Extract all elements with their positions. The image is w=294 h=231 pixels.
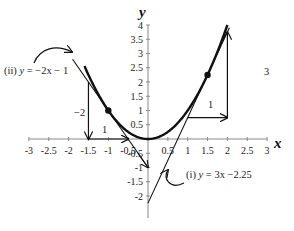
y-tick-label: 0.5 — [131, 119, 144, 130]
tangent-i-rise-label: 3 — [264, 66, 269, 77]
tangent-ii-run-label: 1 — [102, 124, 107, 135]
x-tick-label: -1.5 — [81, 145, 97, 156]
x-tick-label: -2.5 — [41, 145, 57, 156]
y-tick-label: 1.5 — [131, 91, 144, 102]
x-tick-label: -1 — [104, 145, 112, 156]
tangent-i-pointer-arrow — [166, 170, 184, 185]
tangent-ii-label: (ii) y = −2x − 1 — [4, 65, 68, 77]
y-tick-label: 1 — [138, 105, 143, 116]
x-tick-label: 1 — [185, 145, 190, 156]
y-tick-label: -1.5 — [127, 176, 143, 187]
y-tick-label: -1 — [135, 162, 143, 173]
x-tick-label: 3 — [265, 145, 270, 156]
tangent-ii-pointer-arrow — [34, 48, 72, 63]
y-tick-label: 4 — [138, 20, 143, 31]
x-tick-label: -3 — [25, 145, 33, 156]
y-tick-label: 3 — [138, 48, 143, 59]
y-tick-label: 3.5 — [131, 34, 144, 45]
tangent-point-ii — [105, 107, 111, 113]
diagram-canvas: -3-2.5-2-1.5-1-0.50.511.522.530.511.522.… — [0, 0, 294, 231]
tangent-i-label: (i) y = 3x −2.25 — [186, 169, 252, 181]
tangent-point-i — [204, 72, 210, 78]
x-tick-label: 2 — [225, 145, 230, 156]
y-axis-title: y — [137, 4, 146, 20]
x-tick-label: 1.5 — [201, 145, 214, 156]
tangent-i-run-label: 1 — [208, 99, 213, 110]
tangent-diagram: -3-2.5-2-1.5-1-0.50.511.522.530.511.522.… — [0, 0, 294, 231]
parabola-curve — [84, 25, 227, 139]
y-tick-label: -2 — [135, 191, 143, 202]
x-tick-label: 2.5 — [241, 145, 254, 156]
y-tick-label: 2 — [138, 77, 143, 88]
x-axis-title: x — [273, 135, 282, 151]
y-tick-label: 2.5 — [131, 62, 144, 73]
x-tick-label: -2 — [64, 145, 72, 156]
tangent-ii-rise-label: −2 — [74, 107, 85, 118]
axes — [29, 25, 267, 218]
